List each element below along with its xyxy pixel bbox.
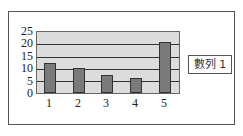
bar-3: [101, 75, 113, 93]
plot-area: [36, 31, 180, 94]
y-tick-0: 0: [9, 87, 33, 99]
gridline-15: [37, 57, 179, 58]
x-tick-3: 3: [100, 97, 112, 109]
y-tick-20: 20: [9, 37, 33, 49]
bar-4: [130, 78, 142, 93]
x-tick-2: 2: [72, 97, 84, 109]
bar-1: [44, 63, 56, 93]
bar-2: [73, 68, 85, 93]
x-tick-5: 5: [158, 97, 170, 109]
y-tick-10: 10: [9, 62, 33, 74]
legend-label: 數列 1: [194, 58, 227, 71]
x-tick-4: 4: [129, 97, 141, 109]
gridline-10: [37, 69, 179, 70]
x-tick-1: 1: [43, 97, 55, 109]
gridline-20: [37, 44, 179, 45]
bar-5: [159, 42, 171, 93]
legend: 數列 1: [188, 55, 232, 74]
